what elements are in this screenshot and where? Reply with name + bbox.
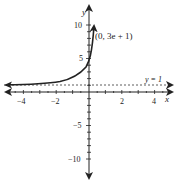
x-tick-label: −4 [17, 97, 26, 106]
y-tick-label: 5 [79, 54, 83, 63]
y-tick-label: −5 [73, 121, 82, 130]
y-tick-label: −10 [68, 155, 81, 164]
y-tick-label: 10 [74, 21, 82, 30]
asymptote-label: y = 1 [144, 75, 162, 84]
function-graph: y x (0, 3e + 1) y = 1 −4 −2 2 4 10 5 −5 … [0, 0, 179, 181]
point-label: (0, 3e + 1) [95, 31, 133, 41]
x-tick-label: 4 [152, 97, 156, 106]
x-axis-label: x [164, 94, 169, 104]
y-axis-label: y [81, 7, 86, 17]
x-tick-label: 2 [120, 97, 124, 106]
x-tick-label: −2 [51, 97, 60, 106]
